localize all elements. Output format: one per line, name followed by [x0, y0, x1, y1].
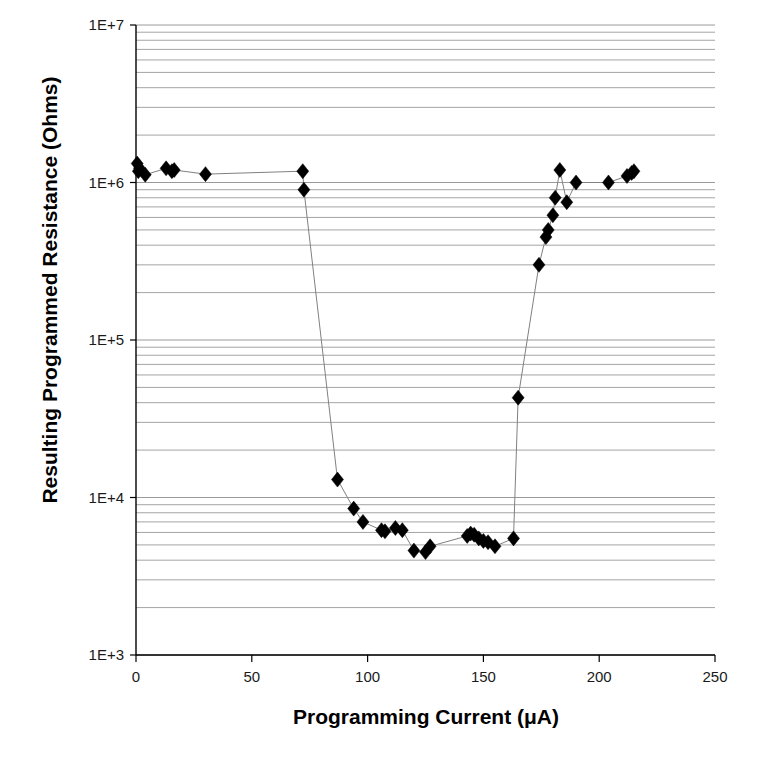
data-point-marker — [297, 164, 309, 179]
data-point-marker — [533, 257, 545, 272]
x-tick-label: 50 — [222, 668, 282, 685]
data-point-marker — [602, 175, 614, 190]
gridlines-group — [136, 25, 715, 655]
x-tick-label: 100 — [338, 668, 398, 685]
data-point-marker — [331, 472, 343, 487]
y-tick-label: 1E+6 — [64, 174, 124, 191]
data-point-marker — [199, 167, 211, 182]
y-tick-label: 1E+7 — [64, 16, 124, 33]
x-tick-label: 250 — [685, 668, 745, 685]
data-point-marker — [549, 190, 561, 205]
data-point-marker — [561, 195, 573, 210]
data-line-group — [137, 164, 634, 553]
data-line — [137, 164, 634, 553]
y-tick-label: 1E+4 — [64, 489, 124, 506]
data-point-marker — [547, 208, 559, 223]
chart-figure: Resulting Programmed Resistance (Ohms) P… — [0, 0, 758, 768]
data-point-marker — [554, 163, 566, 178]
x-tick-label: 0 — [106, 668, 166, 685]
data-point-marker — [570, 175, 582, 190]
data-point-marker — [298, 182, 310, 197]
data-point-marker — [408, 543, 420, 558]
data-markers-group — [131, 156, 640, 560]
x-tick-label: 150 — [453, 668, 513, 685]
x-tick-label: 200 — [569, 668, 629, 685]
y-tick-label: 1E+3 — [64, 646, 124, 663]
tick-marks-group — [130, 25, 715, 662]
data-point-marker — [508, 531, 520, 546]
y-tick-label: 1E+5 — [64, 331, 124, 348]
